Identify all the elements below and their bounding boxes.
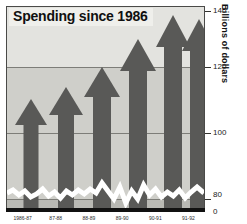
arrow-head: [84, 67, 120, 97]
y-tick-80: [205, 199, 211, 200]
y-axis-title: Billions of dollars: [220, 4, 230, 83]
y-tick-140: [205, 11, 211, 12]
x-tick-label-2: 87-88: [39, 215, 72, 224]
y-tick-100: [205, 133, 211, 134]
x-tick-label-1: 1986-87: [6, 215, 39, 224]
y-tick-120: [205, 67, 211, 68]
arrow-head: [120, 39, 156, 71]
axis-baseline: [6, 208, 205, 212]
y-tick-label-100: 100: [213, 129, 226, 137]
arrow-head: [15, 99, 47, 125]
x-tick-label-5: 90-91: [139, 215, 172, 224]
chart-title: Spending since 1986: [13, 9, 148, 24]
y-tick-label-0: 0: [213, 208, 217, 216]
x-tick-label-4: 89-90: [106, 215, 139, 224]
arrow-head: [182, 19, 205, 51]
chart-title-box: Spending since 1986: [9, 8, 153, 26]
y-tick-label-80: 80: [213, 191, 222, 199]
x-tick-label-6: 91-92: [172, 215, 205, 224]
x-tick-label-3: 88-89: [72, 215, 105, 224]
x-axis-labels: 1986-87 87-88 88-89 89-90 90-91 91-92: [6, 215, 205, 224]
plot-area: [6, 6, 205, 210]
arrow-head: [49, 87, 83, 115]
chart-figure: Spending since 1986 140 120 100 80 0 Bil…: [0, 0, 247, 224]
y-axis-title-wrapper: Billions of dollars: [230, 4, 244, 124]
zigzag-trend-line: [7, 169, 204, 209]
